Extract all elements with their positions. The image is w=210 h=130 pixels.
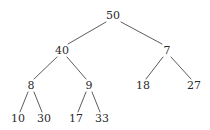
- tree-node-30: 30: [37, 113, 51, 124]
- tree-node-8: 8: [27, 80, 34, 91]
- tree-node-33: 33: [95, 113, 109, 124]
- tree-node-27: 27: [187, 80, 201, 91]
- binary-tree-figure: 5040789182710301733: [0, 0, 210, 130]
- tree-node-7: 7: [163, 45, 170, 56]
- tree-node-9: 9: [85, 80, 92, 91]
- tree-node-17: 17: [69, 113, 83, 124]
- tree-node-40: 40: [55, 45, 69, 56]
- tree-node-50: 50: [106, 10, 120, 21]
- tree-node-18: 18: [136, 80, 150, 91]
- tree-node-10: 10: [11, 113, 25, 124]
- tree-node-layer: 5040789182710301733: [0, 0, 210, 130]
